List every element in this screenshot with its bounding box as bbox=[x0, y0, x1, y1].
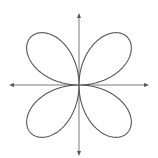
y-axis-top-arrow-icon bbox=[77, 13, 81, 18]
x-axis-left-arrow-icon bbox=[9, 83, 14, 87]
y-axis-bottom-arrow-icon bbox=[77, 151, 81, 156]
rose-curve-diagram bbox=[0, 0, 158, 158]
x-axis-right-arrow-icon bbox=[144, 83, 149, 87]
